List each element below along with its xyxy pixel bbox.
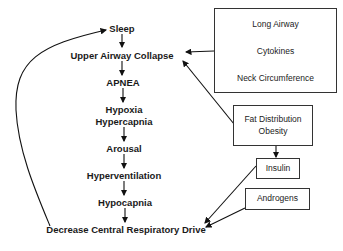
node-hypercapnia: Hypercapnia (95, 116, 152, 127)
fat-distribution-label: Fat Distribution (234, 114, 312, 125)
node-arousal: Arousal (106, 143, 141, 154)
factor-neck-circumference: Neck Circumference (215, 73, 336, 84)
box-fat-distribution-obesity: Fat Distribution Obesity (233, 105, 313, 146)
node-hyperventilation: Hyperventilation (87, 170, 161, 181)
node-hypoxia: Hypoxia (106, 104, 143, 115)
node-sleep: Sleep (109, 23, 134, 34)
arrow-airway-factors-to-collapse (186, 51, 214, 52)
node-decrease-central-respiratory-drive: Decrease Central Respiratory Drive (46, 224, 205, 235)
arrow-androgens-to-drive (206, 208, 245, 227)
box-airway-factors: Long Airway Cytokines Neck Circumference (214, 8, 337, 93)
factor-long-airway: Long Airway (215, 19, 336, 30)
box-insulin: Insulin (256, 158, 300, 179)
factor-cytokines: Cytokines (215, 46, 336, 57)
node-hypocapnia: Hypocapnia (98, 197, 152, 208)
insulin-label: Insulin (257, 163, 299, 174)
obesity-label: Obesity (234, 126, 312, 137)
node-apnea: APNEA (106, 77, 139, 88)
androgens-label: Androgens (246, 193, 309, 204)
box-androgens: Androgens (245, 188, 310, 210)
node-upper-airway-collapse: Upper Airway Collapse (70, 50, 173, 61)
